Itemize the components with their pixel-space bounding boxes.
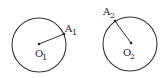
label-a1-subscript: 1 <box>72 28 77 37</box>
label-o2-subscript: 2 <box>130 52 135 61</box>
label-a2-subscript: 2 <box>110 11 115 20</box>
center-point-o1 <box>38 43 41 46</box>
radius-o2-a2 <box>115 21 131 43</box>
center-point-o2 <box>130 42 133 45</box>
label-o1-subscript: 1 <box>42 53 47 62</box>
circle-1-group: O 1 A 1 <box>12 18 77 72</box>
two-circles-diagram: O 1 A 1 O 2 A 2 <box>0 0 166 78</box>
circle-2 <box>103 17 157 71</box>
circle-2-group: O 2 A 2 <box>102 6 157 71</box>
point-a2 <box>114 20 117 23</box>
radius-o1-a1 <box>39 34 64 44</box>
